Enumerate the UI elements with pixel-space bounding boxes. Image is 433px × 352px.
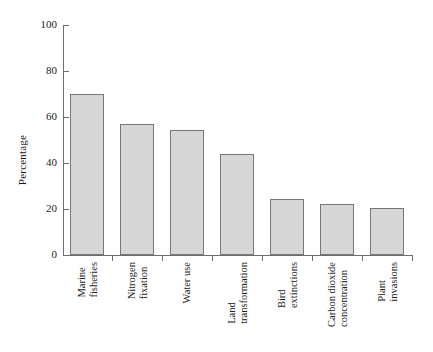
bar (320, 204, 354, 255)
x-axis-tick (362, 255, 363, 261)
x-axis-label-line: invasions (387, 262, 399, 302)
bar (370, 208, 404, 255)
bar (170, 130, 204, 255)
x-axis-tick (162, 255, 163, 261)
bar (120, 124, 154, 255)
x-axis-label-line: Bird (276, 262, 288, 308)
x-axis-tick (262, 255, 263, 261)
bar (70, 94, 104, 255)
y-axis-tick-label: 40 (0, 157, 57, 168)
bar-chart-figure: Percentage 020406080100 MarinefisheriesN… (0, 0, 433, 352)
x-axis-tick (212, 255, 213, 261)
bar (220, 154, 254, 255)
x-axis-tick (412, 255, 413, 261)
x-axis-label-line: extinctions (287, 262, 299, 308)
x-axis-label-line: fisheries (87, 262, 99, 298)
x-axis-tick (112, 255, 113, 261)
y-axis-tick-label: 100 (0, 19, 57, 30)
y-axis-tick (63, 117, 69, 118)
x-axis-tick (312, 255, 313, 261)
y-axis-tick (63, 163, 69, 164)
y-axis-tick (63, 25, 69, 26)
bar (270, 199, 304, 255)
x-axis-label-line: Water use (181, 262, 193, 303)
y-axis-tick (63, 71, 69, 72)
y-axis-tick (63, 255, 69, 256)
y-axis-line (63, 25, 64, 256)
x-axis-label-line: Carbon dioxide (326, 262, 338, 327)
x-axis-label-line: concentration (337, 262, 349, 327)
x-axis-label-line: transformation (237, 262, 249, 324)
x-axis-label-line: Marine (76, 262, 88, 298)
y-axis-tick-label: 80 (0, 65, 57, 76)
y-axis-tick-label: 20 (0, 203, 57, 214)
x-axis-label-line: Plant (376, 262, 388, 302)
y-axis-tick-label: 60 (0, 111, 57, 122)
y-axis-tick (63, 209, 69, 210)
x-axis-line (63, 255, 413, 256)
x-axis-label-line: fixation (137, 262, 149, 299)
x-axis-label-line: Land (226, 262, 238, 324)
x-axis-label-line: Nitrogen (126, 262, 138, 299)
y-axis-tick-label: 0 (0, 249, 57, 260)
